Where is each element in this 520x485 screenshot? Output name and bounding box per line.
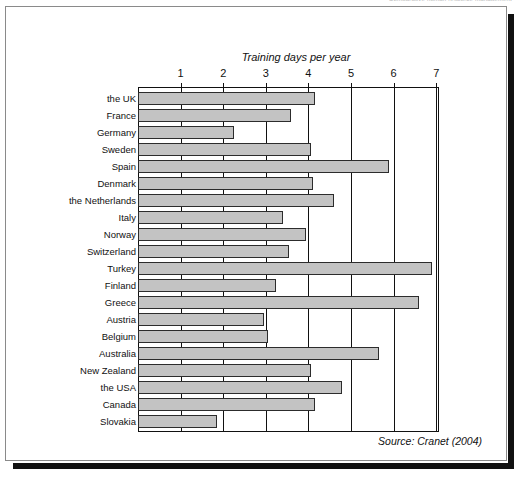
category-label-8: Norway	[16, 229, 136, 240]
x-tickmark-3	[266, 83, 267, 88]
figure-shadow-right	[508, 14, 514, 469]
category-label-15: Australia	[16, 348, 136, 359]
bar-11	[138, 279, 276, 292]
category-label-10: Turkey	[16, 263, 136, 274]
bar-7	[138, 211, 283, 224]
x-tickmark-2	[223, 83, 224, 88]
category-label-11: Finland	[16, 280, 136, 291]
bar-15	[138, 347, 379, 360]
x-tick-label-3: 3	[256, 67, 276, 79]
bar-3	[138, 143, 311, 156]
category-label-6: the Netherlands	[16, 195, 136, 206]
gridline-6	[394, 87, 395, 432]
bar-18	[138, 398, 315, 411]
bar-8	[138, 228, 306, 241]
category-label-7: Italy	[16, 212, 136, 223]
category-label-0: the UK	[16, 93, 136, 104]
category-label-19: Slovakia	[16, 416, 136, 427]
category-label-12: Greece	[16, 297, 136, 308]
category-label-16: New Zealand	[16, 365, 136, 376]
x-tick-label-7: 7	[426, 67, 446, 79]
figure-frame: Training days per year 1234567 the UKFra…	[5, 6, 507, 461]
bar-5	[138, 177, 313, 190]
bar-6	[138, 194, 334, 207]
bar-0	[138, 92, 315, 105]
bar-10	[138, 262, 432, 275]
bar-13	[138, 313, 264, 326]
category-label-1: France	[16, 110, 136, 121]
category-label-5: Denmark	[16, 178, 136, 189]
bar-9	[138, 245, 289, 258]
x-axis-title: Training days per year	[166, 51, 426, 63]
y-axis-category-labels: the UKFranceGermanySwedenSpainDenmarkthe…	[16, 87, 136, 432]
category-label-4: Spain	[16, 161, 136, 172]
running-head-text: Comparative human resource management	[389, 0, 512, 1]
x-axis-tick-labels: 1234567	[137, 67, 447, 81]
bar-1	[138, 109, 291, 122]
x-tickmark-5	[351, 83, 352, 88]
category-label-14: Belgium	[16, 331, 136, 342]
x-tick-label-6: 6	[384, 67, 404, 79]
x-tick-label-5: 5	[341, 67, 361, 79]
figure-shadow-bottom	[13, 463, 514, 469]
bar-16	[138, 364, 311, 377]
x-tick-label-2: 2	[213, 67, 233, 79]
category-label-3: Sweden	[16, 144, 136, 155]
horizontal-bar-chart: Training days per year 1234567 the UKFra…	[6, 7, 508, 462]
source-note: Source: Cranet (2004)	[378, 435, 482, 447]
x-tick-label-1: 1	[171, 67, 191, 79]
plot-area	[138, 87, 439, 432]
bar-2	[138, 126, 234, 139]
bar-17	[138, 381, 342, 394]
x-tickmark-1	[181, 83, 182, 88]
x-tickmark-6	[394, 83, 395, 88]
bar-12	[138, 296, 419, 309]
bar-14	[138, 330, 268, 343]
category-label-18: Canada	[16, 399, 136, 410]
category-label-13: Austria	[16, 314, 136, 325]
bar-19	[138, 415, 217, 428]
x-tick-label-4: 4	[298, 67, 318, 79]
category-label-2: Germany	[16, 127, 136, 138]
gridline-5	[351, 87, 352, 432]
x-tickmark-7	[436, 83, 437, 88]
category-label-9: Switzerland	[16, 246, 136, 257]
bar-4	[138, 160, 389, 173]
x-tickmark-4	[308, 83, 309, 88]
gridline-7	[436, 87, 437, 432]
category-label-17: the USA	[16, 382, 136, 393]
